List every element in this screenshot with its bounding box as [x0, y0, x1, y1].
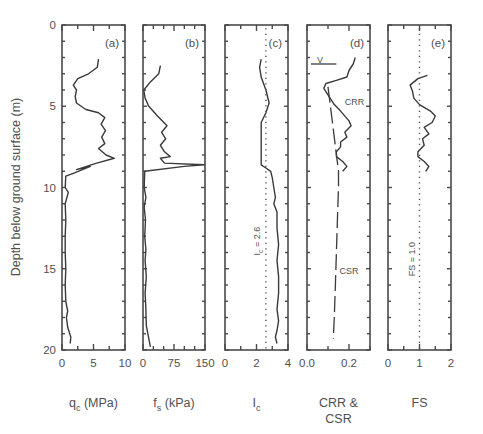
panels: 0510(a)qc (MPa)075150(b)fs (kPa)024(c)Ic…	[59, 25, 454, 426]
panel-label: (a)	[105, 37, 119, 49]
x-tick-label: 1	[416, 357, 422, 369]
cpt-liquefaction-chart: 05101520 Depth below ground surface (m) …	[0, 0, 483, 434]
x-tick-label: 75	[168, 357, 181, 369]
x-tick-label: 0.0	[299, 357, 315, 369]
x-tick-label: 0	[222, 357, 228, 369]
panel-label: (d)	[350, 37, 364, 49]
panel-label: (c)	[269, 37, 283, 49]
y-tick-label: 15	[43, 263, 56, 275]
depth-axis: 05101520	[43, 19, 56, 356]
panel-d: 0.00.2(d)CRR &CSRVCRRCSR	[299, 25, 370, 426]
depth-axis-label: Depth below ground surface (m)	[9, 98, 23, 277]
crr-curve-label: CRR	[345, 97, 365, 107]
x-tick-label: 0.2	[341, 357, 357, 369]
y-tick-label: 20	[43, 344, 56, 356]
fs-threshold-annotation: FS = 1.0	[407, 242, 417, 276]
x-axis-label: Ic	[253, 396, 261, 413]
x-axis-label: CRR &	[319, 396, 359, 410]
series-qc	[65, 59, 114, 343]
water-table-symbol: V	[317, 55, 323, 65]
x-axis-label-line2: CSR	[325, 412, 351, 426]
panel-frame	[225, 25, 288, 350]
series-csr	[328, 87, 339, 339]
panel-label: (b)	[185, 37, 199, 49]
panel-a: 0510(a)qc (MPa)	[59, 25, 132, 413]
panel-frame	[388, 25, 451, 350]
series-ic	[260, 59, 279, 343]
series-fs	[410, 75, 435, 171]
x-tick-label: 0	[385, 357, 391, 369]
series-crr	[324, 58, 356, 172]
panel-e: 012(e)FSFS = 1.0	[385, 25, 454, 410]
panel-label: (e)	[431, 37, 445, 49]
panel-b: 075150(b)fs (kPa)	[140, 25, 215, 413]
x-axis-label: fs (kPa)	[153, 396, 194, 413]
panel-frame	[307, 25, 370, 350]
y-tick-label: 10	[43, 182, 56, 194]
x-axis-label: FS	[412, 396, 428, 410]
x-tick-label: 2	[448, 357, 454, 369]
x-tick-label: 0	[140, 357, 146, 369]
panel-frame	[143, 25, 205, 350]
ic-threshold-annotation: Ic = 2.6	[252, 227, 264, 256]
series-fs	[144, 66, 204, 347]
x-tick-label: 5	[90, 357, 96, 369]
y-tick-label: 5	[50, 100, 56, 112]
x-tick-label: 4	[285, 357, 292, 369]
x-axis-label: qc (MPa)	[69, 396, 118, 413]
y-tick-label: 0	[50, 19, 56, 31]
x-tick-label: 2	[253, 357, 259, 369]
panel-c: 024(c)IcIc = 2.6	[222, 25, 292, 413]
x-tick-label: 0	[59, 357, 65, 369]
csr-curve-label: CSR	[340, 266, 360, 276]
x-tick-label: 150	[195, 357, 214, 369]
panel-frame	[62, 25, 125, 350]
x-tick-label: 10	[119, 357, 132, 369]
